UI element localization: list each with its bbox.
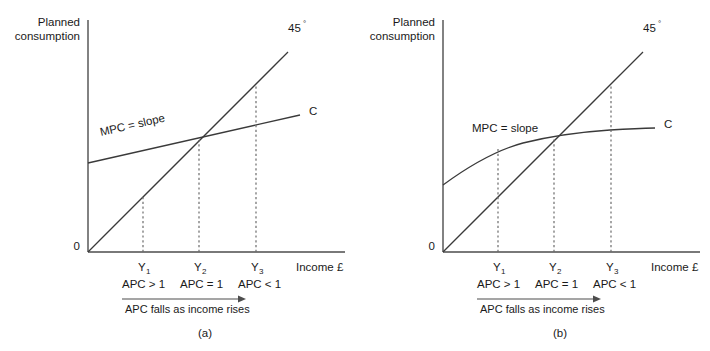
- trend-arrow-head: [593, 296, 601, 303]
- trend-note: APC falls as income rises: [125, 303, 250, 315]
- x-tick-y1: Y: [138, 261, 146, 273]
- y-axis-label-line2: consumption: [370, 30, 435, 42]
- x-tick-y2-subscript: 2: [202, 267, 207, 276]
- consumption-curve-label: C: [664, 118, 672, 130]
- mpc-slope-label: MPC = slope: [472, 122, 538, 134]
- x-tick-y2: Y: [549, 261, 557, 273]
- consumption-function-figure: Planned consumption 0 45 ° C MPC = slope: [0, 0, 710, 351]
- forty-five-degree-line: [443, 52, 643, 252]
- panel-a: Planned consumption 0 45 ° C MPC = slope: [0, 0, 355, 351]
- degree-symbol: °: [303, 19, 306, 28]
- trend-note: APC falls as income rises: [480, 303, 605, 315]
- forty-five-degree-line: [88, 52, 288, 252]
- panel-b: Planned consumption 0 45 ° C MPC = slope: [355, 0, 710, 351]
- x-tick-y3-subscript: 3: [614, 267, 619, 276]
- x-axis-label: Income £: [651, 261, 699, 273]
- x-tick-y1: Y: [493, 261, 501, 273]
- x-tick-y2: Y: [194, 261, 202, 273]
- panel-caption-a: (a): [198, 327, 212, 339]
- x-tick-y3: Y: [606, 261, 614, 273]
- forty-five-degree-label: 45: [288, 22, 301, 34]
- degree-symbol: °: [658, 19, 661, 28]
- apc-label-greater: APC > 1: [122, 278, 165, 290]
- mpc-slope-label: MPC = slope: [99, 112, 166, 138]
- origin-label: 0: [74, 240, 80, 252]
- apc-label-greater: APC > 1: [477, 278, 520, 290]
- x-tick-y3-subscript: 3: [259, 267, 264, 276]
- forty-five-degree-label: 45: [643, 22, 656, 34]
- apc-label-equal: APC = 1: [535, 278, 578, 290]
- consumption-curve-label: C: [309, 105, 317, 117]
- trend-arrow-head: [238, 296, 246, 303]
- y-axis-label-line2: consumption: [15, 30, 80, 42]
- apc-label-equal: APC = 1: [180, 278, 223, 290]
- origin-label: 0: [429, 240, 435, 252]
- x-tick-y3: Y: [251, 261, 259, 273]
- x-axis-label: Income £: [296, 261, 344, 273]
- x-tick-y1-subscript: 1: [146, 267, 151, 276]
- apc-label-less: APC < 1: [238, 278, 281, 290]
- y-axis-label-line1: Planned: [38, 16, 80, 28]
- consumption-curve: [443, 128, 655, 185]
- x-tick-y2-subscript: 2: [557, 267, 562, 276]
- y-axis-label-line1: Planned: [393, 16, 435, 28]
- panel-caption-b: (b): [553, 327, 567, 339]
- apc-label-less: APC < 1: [593, 278, 636, 290]
- x-tick-y1-subscript: 1: [501, 267, 506, 276]
